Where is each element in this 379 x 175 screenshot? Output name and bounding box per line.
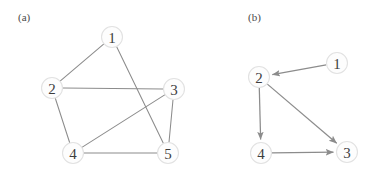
edge-2-3 xyxy=(63,88,163,89)
node-b-1[interactable]: 1 xyxy=(327,53,348,74)
edges-b xyxy=(259,65,336,153)
arrow-1-2 xyxy=(272,65,326,75)
edge-3-5 xyxy=(169,100,173,142)
node-a-5[interactable]: 5 xyxy=(158,143,179,164)
arrow-2-4 xyxy=(259,88,260,140)
node-a-2[interactable]: 2 xyxy=(42,78,63,99)
node-label-a-3: 3 xyxy=(170,82,178,98)
node-label-b-3: 3 xyxy=(343,145,351,161)
panel-b: (b)1234 xyxy=(248,11,358,164)
node-label-a-5: 5 xyxy=(164,146,172,162)
panel-a: (a)12345 xyxy=(18,11,185,164)
node-b-3[interactable]: 3 xyxy=(337,142,358,163)
edge-1-5 xyxy=(117,47,163,143)
figure-container: (a)12345(b)1234 xyxy=(0,0,379,175)
panel-caption-a: (a) xyxy=(18,11,31,24)
node-label-a-2: 2 xyxy=(48,81,56,97)
arrow-2-3 xyxy=(267,84,336,143)
node-a-3[interactable]: 3 xyxy=(164,79,185,100)
edges-a xyxy=(55,44,173,153)
node-b-2[interactable]: 2 xyxy=(249,67,270,88)
edge-2-4 xyxy=(55,98,69,142)
node-label-b-4: 4 xyxy=(257,146,265,162)
node-label-b-2: 2 xyxy=(255,70,263,86)
node-label-b-1: 1 xyxy=(333,56,341,72)
node-a-1[interactable]: 1 xyxy=(102,27,123,48)
panels-layer: (a)12345(b)1234 xyxy=(18,11,358,164)
panel-caption-b: (b) xyxy=(248,11,261,24)
node-b-4[interactable]: 4 xyxy=(251,143,272,164)
arrow-4-3 xyxy=(272,152,334,153)
node-label-a-4: 4 xyxy=(69,146,77,162)
graph-figure-svg: (a)12345(b)1234 xyxy=(0,0,379,175)
node-a-4[interactable]: 4 xyxy=(63,143,84,164)
edge-1-2 xyxy=(60,44,103,81)
node-label-a-1: 1 xyxy=(108,30,116,46)
